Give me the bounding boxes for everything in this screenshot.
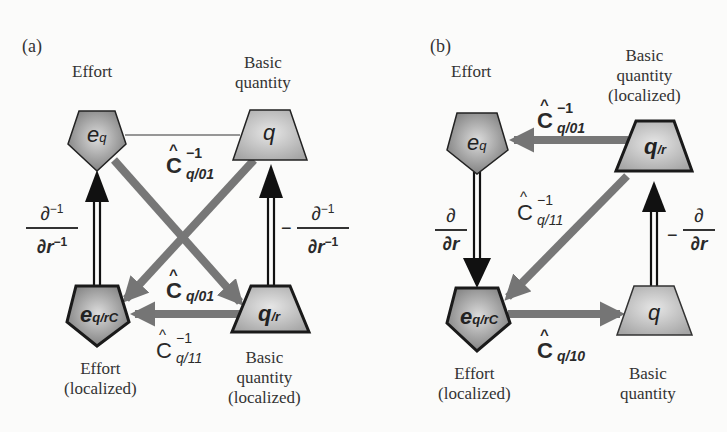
operator-c-q10-b: ^ C q/10 <box>537 338 553 364</box>
caption-effort-b: Effort <box>451 62 491 82</box>
caption-effort-a: Effort <box>72 62 112 82</box>
symbol-eqrc-b: eq/rC <box>460 304 498 330</box>
right-vertical-arrow-b <box>642 181 666 286</box>
operator-derivative-left-b: ∂ ∂r <box>435 205 467 255</box>
caption-basic-quantity-localized-a: Basic quantity (localized) <box>228 348 301 408</box>
symbol-q-a: q <box>263 120 275 146</box>
caption-effort-localized-b: Effort (localized) <box>438 364 511 404</box>
symbol-qlr-a: q/r <box>258 301 280 327</box>
operator-c-inv-q01-b: ^ C −1 q/01 <box>537 108 553 134</box>
symbol-q-b: q <box>648 300 660 326</box>
left-vertical-arrow-a <box>85 170 109 285</box>
operator-inverse-derivative-left-a: ∂−1 ∂r−1 <box>26 198 78 259</box>
operator-c-inv-q01-a: ^ C −1 q/01 <box>166 153 182 179</box>
caption-basic-quantity-a: Basic quantity <box>235 53 291 93</box>
panel-b-label: (b) <box>430 36 451 57</box>
caption-basic-quantity-localized-b: Basic quantity (localized) <box>608 46 681 106</box>
operator-c-inv-q11-a: ^ C −1 q/11 <box>156 338 172 364</box>
operator-derivative-right-b: − ∂ ∂r <box>683 205 715 255</box>
diagram-stage: (a) Effort Basic quantity Effort (locali… <box>0 0 727 432</box>
caption-effort-localized-a: Effort (localized) <box>64 359 137 399</box>
symbol-qlr-b: q/r <box>644 134 666 160</box>
left-vertical-arrow-b <box>463 172 491 288</box>
symbol-eqrc-a: eq/rC <box>80 302 118 328</box>
symbol-eq-b: eq <box>467 130 486 156</box>
caption-basic-quantity-b: Basic quantity <box>620 364 676 404</box>
right-vertical-arrow-a <box>259 164 283 285</box>
panel-a-label: (a) <box>22 36 42 57</box>
operator-c-q01-a: ^ C q/01 <box>166 278 182 304</box>
symbol-eq-a: eq <box>87 122 106 148</box>
operator-c-inv-q11-b: ^ C −1 q/11 <box>517 200 533 226</box>
operator-inverse-derivative-right-a: − ∂−1 ∂r−1 <box>297 198 349 259</box>
